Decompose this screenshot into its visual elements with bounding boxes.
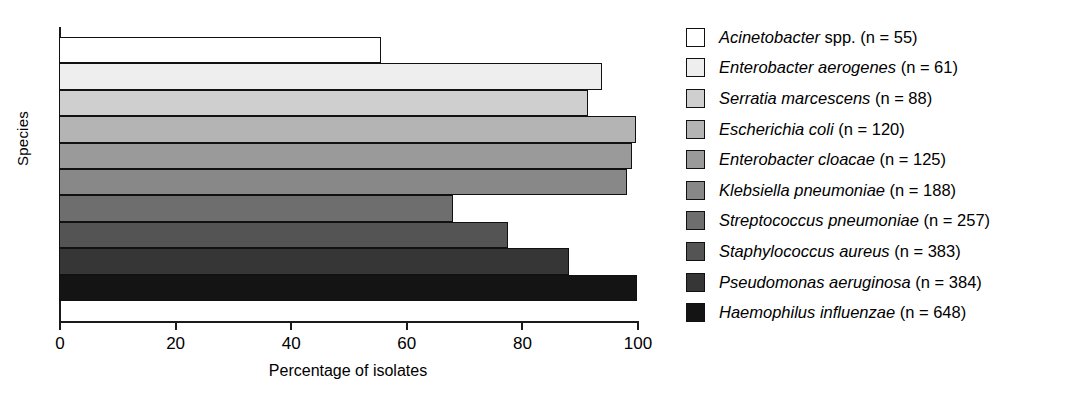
x-axis-tick-label: 0 bbox=[30, 334, 90, 354]
legend-count-text: (n = 120) bbox=[834, 120, 905, 138]
x-axis-tick bbox=[175, 321, 177, 330]
bar[interactable] bbox=[59, 37, 381, 63]
bar-row bbox=[59, 116, 659, 142]
legend-count-text: (n = 88) bbox=[870, 89, 932, 107]
legend-item[interactable]: Escherichia coli (n = 120) bbox=[686, 114, 1076, 145]
bar[interactable] bbox=[59, 248, 569, 274]
bars-container bbox=[59, 37, 659, 301]
legend-species-name: Escherichia coli bbox=[719, 120, 834, 138]
bar-row bbox=[59, 222, 659, 248]
legend-swatch bbox=[686, 28, 705, 47]
bar[interactable] bbox=[59, 275, 637, 301]
legend-item[interactable]: Klebsiella pneumoniae (n = 188) bbox=[686, 175, 1076, 206]
bar[interactable] bbox=[59, 116, 636, 142]
legend-count-text: (n = 257) bbox=[919, 211, 990, 229]
bar[interactable] bbox=[59, 143, 632, 169]
legend: Acinetobacter spp. (n = 55)Enterobacter … bbox=[686, 22, 1076, 328]
legend-swatch bbox=[686, 89, 705, 108]
x-axis-tick bbox=[521, 321, 523, 330]
bar-row bbox=[59, 90, 659, 116]
bar-row bbox=[59, 275, 659, 301]
legend-item[interactable]: Enterobacter cloacae (n = 125) bbox=[686, 144, 1076, 175]
legend-item[interactable]: Staphylococcus aureus (n = 383) bbox=[686, 236, 1076, 267]
legend-count-text: (n = 125) bbox=[875, 150, 946, 168]
legend-item[interactable]: Pseudomonas aeruginosa (n = 384) bbox=[686, 267, 1076, 298]
legend-species-name: Serratia marcescens bbox=[719, 89, 870, 107]
legend-item-label: Staphylococcus aureus (n = 383) bbox=[719, 242, 961, 261]
legend-item-label: Klebsiella pneumoniae (n = 188) bbox=[719, 181, 956, 200]
legend-item-label: Streptococcus pneumoniae (n = 257) bbox=[719, 211, 990, 230]
legend-item[interactable]: Serratia marcescens (n = 88) bbox=[686, 83, 1076, 114]
legend-species-name: Staphylococcus aureus bbox=[719, 242, 890, 260]
legend-swatch bbox=[686, 58, 705, 77]
bar[interactable] bbox=[59, 169, 627, 195]
x-axis-tick-label: 80 bbox=[492, 334, 552, 354]
x-axis-tick-label: 40 bbox=[261, 334, 321, 354]
legend-item[interactable]: Enterobacter aerogenes (n = 61) bbox=[686, 53, 1076, 84]
x-axis-tick-label: 60 bbox=[377, 334, 437, 354]
legend-swatch bbox=[686, 120, 705, 139]
legend-swatch bbox=[686, 211, 705, 230]
legend-species-name: Acinetobacter bbox=[719, 28, 820, 46]
legend-species-name: Klebsiella pneumoniae bbox=[719, 181, 885, 199]
bar-row bbox=[59, 248, 659, 274]
x-axis-tick bbox=[290, 321, 292, 330]
legend-item-label: Acinetobacter spp. (n = 55) bbox=[719, 28, 918, 47]
bar[interactable] bbox=[59, 222, 508, 248]
legend-swatch bbox=[686, 242, 705, 261]
legend-item[interactable]: Acinetobacter spp. (n = 55) bbox=[686, 22, 1076, 53]
legend-item-label: Enterobacter cloacae (n = 125) bbox=[719, 150, 946, 169]
legend-species-name: Streptococcus pneumoniae bbox=[719, 211, 919, 229]
x-axis-tick-label: 20 bbox=[146, 334, 206, 354]
plot-area: Species 020406080100 Percentage of isola… bbox=[0, 0, 680, 396]
legend-item-label: Enterobacter aerogenes (n = 61) bbox=[719, 58, 958, 77]
x-axis-tick bbox=[637, 321, 639, 330]
legend-swatch bbox=[686, 150, 705, 169]
x-axis-tick bbox=[406, 321, 408, 330]
legend-item-label: Haemophilus influenzae (n = 648) bbox=[719, 303, 966, 322]
bar[interactable] bbox=[59, 195, 453, 221]
legend-count-text: (n = 188) bbox=[885, 181, 956, 199]
bar-row bbox=[59, 195, 659, 221]
x-axis-tick bbox=[59, 321, 61, 330]
legend-item-label: Serratia marcescens (n = 88) bbox=[719, 89, 932, 108]
legend-item-label: Pseudomonas aeruginosa (n = 384) bbox=[719, 273, 982, 292]
legend-swatch bbox=[686, 181, 705, 200]
bar-chart-figure: Species 020406080100 Percentage of isola… bbox=[0, 0, 1079, 396]
bar-row bbox=[59, 143, 659, 169]
legend-count-text: (n = 61) bbox=[896, 58, 958, 76]
legend-species-name: Enterobacter aerogenes bbox=[719, 58, 896, 76]
legend-item[interactable]: Streptococcus pneumoniae (n = 257) bbox=[686, 206, 1076, 237]
legend-species-name: Haemophilus influenzae bbox=[719, 303, 895, 321]
y-axis-title: Species bbox=[14, 79, 31, 199]
legend-count-text: (n = 383) bbox=[890, 242, 961, 260]
legend-count-text: spp. (n = 55) bbox=[820, 28, 918, 46]
bar[interactable] bbox=[59, 90, 588, 116]
legend-species-name: Pseudomonas aeruginosa bbox=[719, 273, 911, 291]
bar[interactable] bbox=[59, 63, 602, 89]
x-axis-title: Percentage of isolates bbox=[59, 362, 637, 380]
legend-swatch bbox=[686, 303, 705, 322]
bar-row bbox=[59, 63, 659, 89]
x-axis-line bbox=[59, 321, 637, 323]
bar-row bbox=[59, 169, 659, 195]
legend-swatch bbox=[686, 273, 705, 292]
legend-count-text: (n = 384) bbox=[911, 273, 982, 291]
bar-row bbox=[59, 37, 659, 63]
x-axis-tick-label: 100 bbox=[608, 334, 668, 354]
legend-count-text: (n = 648) bbox=[895, 303, 966, 321]
legend-species-name: Enterobacter cloacae bbox=[719, 150, 875, 168]
legend-item-label: Escherichia coli (n = 120) bbox=[719, 120, 905, 139]
legend-item[interactable]: Haemophilus influenzae (n = 648) bbox=[686, 297, 1076, 328]
